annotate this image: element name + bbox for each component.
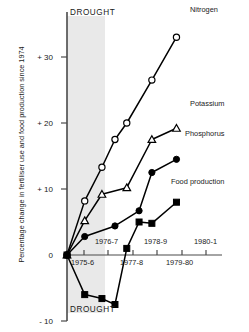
data-point xyxy=(123,184,131,191)
x-tick-label-1979-80: 1979-80 xyxy=(166,259,193,266)
data-point xyxy=(124,120,130,126)
data-point xyxy=(149,220,155,226)
data-point xyxy=(82,233,88,239)
y-tick-label-30: + 30 xyxy=(19,53,53,62)
data-point xyxy=(136,219,142,225)
x-tick-label-1980-1: 1980-1 xyxy=(194,238,217,245)
chart-plot-area xyxy=(0,0,249,332)
data-point xyxy=(173,124,181,131)
y-axis-ticks xyxy=(61,57,67,321)
x-tick-label-1978-9: 1978-9 xyxy=(144,238,167,245)
drought-label-top: DROUGHT xyxy=(70,8,115,17)
y-tick-label-0: 0 xyxy=(19,251,53,260)
data-point xyxy=(173,156,179,162)
data-point xyxy=(112,223,118,229)
y-tick-label-neg10: - 10 xyxy=(19,317,53,326)
series-label-food-production: Food production xyxy=(171,178,224,185)
drought-label-bottom: DROUGHT xyxy=(70,305,115,314)
y-tick-label-20: + 20 xyxy=(19,119,53,128)
data-point xyxy=(149,169,155,175)
data-point xyxy=(112,136,118,142)
y-axis-title: Percentage change in fertiliser use and … xyxy=(17,30,26,280)
x-tick-label-1975-6: 1975-6 xyxy=(71,259,94,266)
data-point xyxy=(173,199,179,205)
data-point xyxy=(82,198,88,204)
y-tick-label-10: + 10 xyxy=(19,185,53,194)
data-point xyxy=(173,34,179,40)
series-label-phosphorus: Phosphorus xyxy=(185,130,224,137)
data-point xyxy=(82,292,88,298)
data-point xyxy=(99,296,105,302)
line-chart: Percentage change in fertiliser use and … xyxy=(0,0,249,332)
x-tick-label-1977-8: 1977-8 xyxy=(120,259,143,266)
data-point xyxy=(136,208,142,214)
series-label-potassium: Potassium xyxy=(190,100,225,107)
data-point xyxy=(64,252,70,258)
data-point xyxy=(149,77,155,83)
x-tick-label-1976-7: 1976-7 xyxy=(95,238,118,245)
data-point xyxy=(124,245,130,251)
series-label-nitrogen: Nitrogen xyxy=(190,6,218,13)
data-point xyxy=(99,164,105,170)
